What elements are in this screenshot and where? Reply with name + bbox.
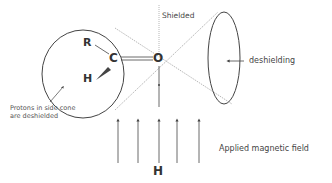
h-c-wedge-bond <box>96 67 111 80</box>
atom-o: O <box>153 52 163 64</box>
side-cone-pointer <box>50 87 63 102</box>
side-cone-note: Protons in side cone are deshielded <box>10 104 75 121</box>
atom-c: C <box>109 52 118 64</box>
applied-field-label: Applied magnetic field <box>219 145 309 153</box>
field-symbol-h: H <box>153 165 163 177</box>
diagram-canvas: R C H O Shielded deshielding Protons in … <box>0 0 332 183</box>
field-arrows <box>118 120 199 163</box>
side-cone-note-line1: Protons in side cone <box>10 104 75 112</box>
atom-h: H <box>83 73 92 84</box>
side-cone-note-line2: are deshielded <box>10 112 75 120</box>
r-c-bond <box>95 45 109 54</box>
right-cone-ellipse <box>208 12 240 104</box>
diagram-graphics <box>0 0 332 183</box>
shielded-label: Shielded <box>162 12 194 20</box>
carbonyl-double-bond <box>121 57 153 60</box>
atom-r: R <box>83 37 91 48</box>
o-down-dot <box>158 84 160 86</box>
deshielding-label: deshielding <box>249 57 295 65</box>
